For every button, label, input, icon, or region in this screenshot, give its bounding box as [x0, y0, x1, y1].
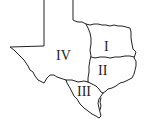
region-label-iv: IV [56, 48, 71, 63]
coastline-detail [100, 98, 101, 110]
region-label-ii: II [98, 63, 108, 78]
boundary-i-ii [91, 56, 134, 58]
region-label-i: I [104, 39, 109, 54]
state-outline [10, 0, 136, 118]
region-label-iii: III [77, 84, 91, 99]
boundary-iii-north [66, 80, 88, 82]
texas-regions-map: IV I II III [0, 0, 147, 128]
boundary-iv-east [86, 24, 91, 82]
